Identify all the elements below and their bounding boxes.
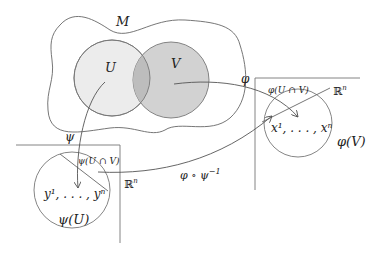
transition-label: φ ∘ ψ−1 (180, 167, 221, 182)
set-v-label: V (171, 56, 182, 71)
left-space-label: ℝn (124, 177, 138, 191)
phi-v-label: φ(V) (337, 134, 366, 149)
manifold-charts-diagram: M U V φ ψ φ ∘ ψ−1 ℝn φ(U ∩ V) x¹, . . . … (0, 0, 377, 256)
transition-arrow (98, 116, 272, 172)
psi-u-label: ψ(U) (58, 212, 89, 227)
right-space-label: ℝn (333, 84, 347, 98)
phi-intersection-label: φ(U ∩ V) (268, 85, 309, 95)
x-coords-label: x¹, . . . , xⁿ (271, 121, 332, 135)
set-u-label: U (105, 60, 117, 75)
phi-label: φ (241, 72, 250, 86)
psi-label: ψ (65, 130, 75, 144)
manifold-label: M (115, 14, 130, 29)
psi-intersection-label: ψ(U ∩ V) (78, 156, 120, 166)
y-coords-label: y¹, . . . , yⁿ (43, 187, 106, 201)
